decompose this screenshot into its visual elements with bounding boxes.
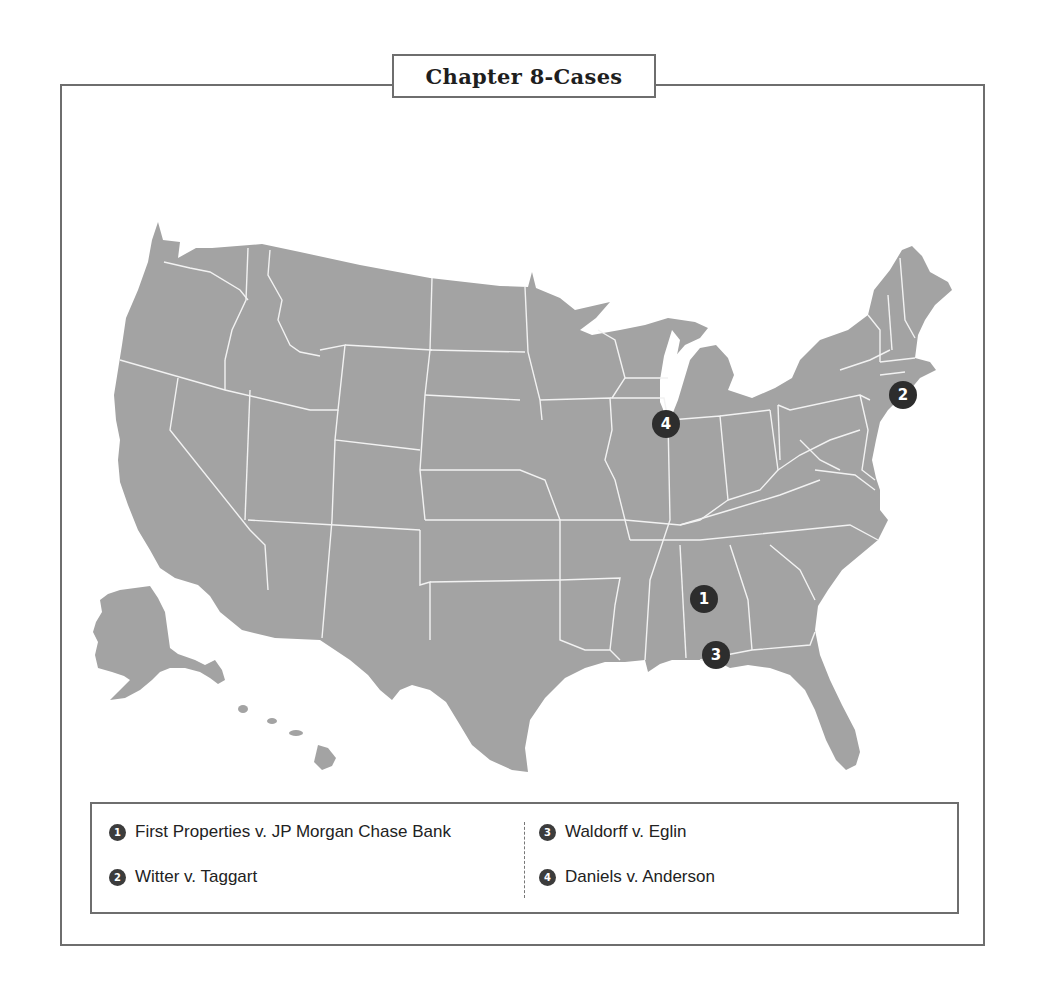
map-marker-2[interactable]: 2 (889, 381, 917, 409)
hawaii-oahu (267, 718, 277, 724)
marker-number: 2 (898, 386, 908, 404)
alaska (93, 586, 225, 700)
legend-item-3[interactable]: 3 Waldorff v. Eglin (539, 822, 687, 842)
legend-label: First Properties v. JP Morgan Chase Bank (135, 822, 451, 842)
number-3-badge-icon: 3 (539, 824, 556, 841)
number-1-badge-icon: 1 (109, 824, 126, 841)
legend-label: Witter v. Taggart (135, 867, 257, 887)
map-marker-1[interactable]: 1 (690, 585, 718, 613)
contiguous-us (114, 222, 952, 772)
marker-number: 4 (661, 415, 671, 433)
hawaii-maui (289, 730, 303, 736)
legend-label: Waldorff v. Eglin (565, 822, 687, 842)
hawaii-kauai (238, 705, 248, 713)
legend-item-2[interactable]: 2 Witter v. Taggart (109, 867, 257, 887)
page-title: Chapter 8-Cases (426, 64, 623, 89)
marker-number: 1 (699, 590, 709, 608)
legend-label: Daniels v. Anderson (565, 867, 715, 887)
legend-divider (524, 822, 525, 898)
number-2-badge-icon: 2 (109, 869, 126, 886)
title-box: Chapter 8-Cases (392, 54, 656, 98)
marker-number: 3 (711, 646, 721, 664)
legend-item-4[interactable]: 4 Daniels v. Anderson (539, 867, 715, 887)
legend-box: 1 First Properties v. JP Morgan Chase Ba… (90, 802, 959, 914)
map-marker-3[interactable]: 3 (702, 641, 730, 669)
legend-item-1[interactable]: 1 First Properties v. JP Morgan Chase Ba… (109, 822, 451, 842)
hawaii-big-island (314, 745, 336, 770)
map-marker-4[interactable]: 4 (652, 410, 680, 438)
number-4-badge-icon: 4 (539, 869, 556, 886)
